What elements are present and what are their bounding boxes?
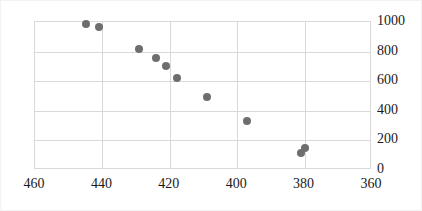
gridline-horizontal bbox=[35, 140, 370, 141]
data-point bbox=[203, 93, 211, 101]
data-point bbox=[243, 117, 251, 125]
x-axis-tick-label: 380 bbox=[282, 177, 326, 191]
data-point bbox=[173, 74, 181, 82]
gridline-horizontal bbox=[35, 81, 370, 82]
y-axis-tick-label: 200 bbox=[377, 132, 398, 146]
y-axis-tick-label: 0 bbox=[377, 162, 384, 176]
y-axis-tick-label: 600 bbox=[377, 73, 398, 87]
gridline-vertical bbox=[102, 22, 103, 168]
x-axis-tick-label: 360 bbox=[349, 177, 393, 191]
gridline-horizontal bbox=[35, 111, 370, 112]
y-axis-tick-label: 400 bbox=[377, 103, 398, 117]
data-point bbox=[152, 54, 160, 62]
data-point bbox=[95, 23, 103, 31]
x-axis-tick-label: 400 bbox=[214, 177, 258, 191]
gridline-vertical bbox=[237, 22, 238, 168]
data-point bbox=[301, 144, 309, 152]
x-axis-tick-label: 440 bbox=[79, 177, 123, 191]
scatter-chart: 02004006008001000 460440420400380360 bbox=[0, 0, 422, 211]
x-axis-tick-label: 460 bbox=[12, 177, 56, 191]
y-axis-tick-label: 800 bbox=[377, 44, 398, 58]
gridline-vertical bbox=[170, 22, 171, 168]
gridline-horizontal bbox=[35, 52, 370, 53]
data-point bbox=[82, 20, 90, 28]
x-axis-tick-label: 420 bbox=[147, 177, 191, 191]
plot-area bbox=[34, 21, 371, 169]
y-axis-tick-label: 1000 bbox=[377, 14, 405, 28]
